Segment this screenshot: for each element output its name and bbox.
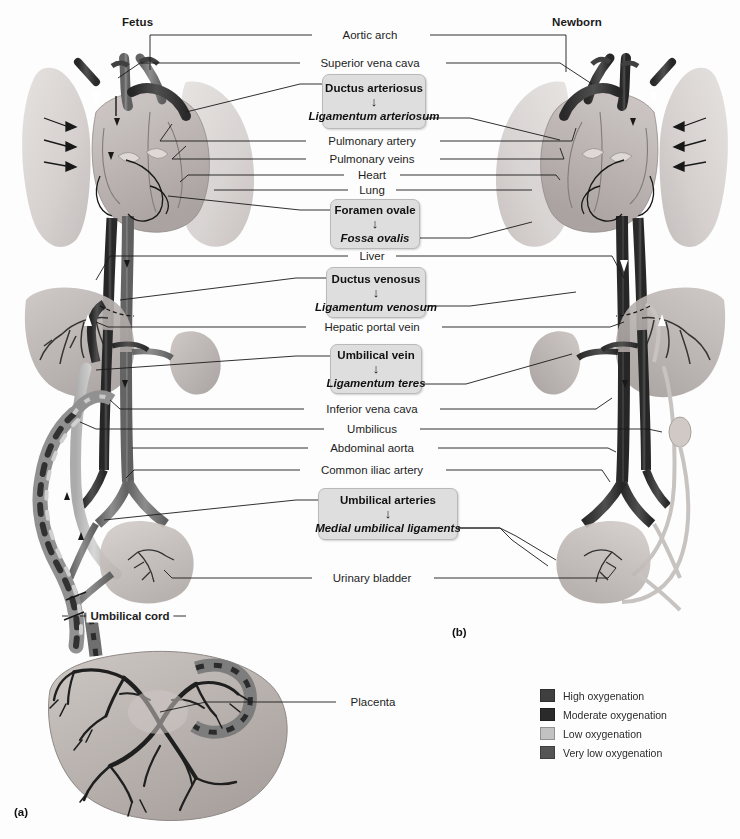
legend-swatch xyxy=(540,708,555,721)
fetal-structure-name: Foramen ovale xyxy=(334,203,415,217)
panel-a-letter: (a) xyxy=(14,806,28,818)
label-urinary-bladder: Urinary bladder xyxy=(329,572,416,585)
label-common-iliac-artery: Common iliac artery xyxy=(317,464,427,477)
label-abdominal-aorta: Abdominal aorta xyxy=(326,442,418,455)
newborn-title: Newborn xyxy=(552,16,602,28)
label-placenta: Placenta xyxy=(347,696,400,709)
down-arrow-icon: ↓ xyxy=(372,218,379,230)
adult-remnant-name: Ligamentum teres xyxy=(326,376,425,390)
adult-remnant-name: Medial umbilical ligaments xyxy=(315,521,461,535)
legend-label: Moderate oxygenation xyxy=(563,709,667,721)
legend-label: Low oxygenation xyxy=(563,728,642,740)
down-arrow-icon: ↓ xyxy=(373,363,380,375)
fetus-illustration xyxy=(22,58,254,646)
down-arrow-icon: ↓ xyxy=(371,96,378,108)
placenta-illustration xyxy=(49,612,288,821)
figure-root: Aortic archSuperior vena cavaPulmonary a… xyxy=(0,0,740,839)
label-superior-vena-cava: Superior vena cava xyxy=(316,57,423,70)
legend-swatch xyxy=(540,689,555,702)
label-lung: Lung xyxy=(355,184,389,197)
label-pulmonary-veins: Pulmonary veins xyxy=(325,153,418,166)
legend-label: Very low oxygenation xyxy=(563,747,662,759)
fetal-structure-name: Ductus arteriosus xyxy=(325,81,423,95)
legend-swatch xyxy=(540,746,555,759)
label-umbilical-cord: Umbilical cord xyxy=(86,610,173,623)
legend-item: Very low oxygenation xyxy=(540,743,720,762)
adult-remnant-name: Ligamentum venosum xyxy=(315,300,437,314)
transition-box-foramen-ovale: Foramen ovale↓Fossa ovalis xyxy=(330,199,420,249)
transition-box-ductus-arteriosus: Ductus arteriosus↓Ligamentum arteriosum xyxy=(322,74,426,129)
down-arrow-icon: ↓ xyxy=(373,287,380,299)
legend-label: High oxygenation xyxy=(563,690,644,702)
fetal-structure-name: Ductus venosus xyxy=(332,272,421,286)
label-liver: Liver xyxy=(356,250,389,263)
label-aortic-arch: Aortic arch xyxy=(339,29,402,42)
transition-box-umbilical-arteries: Umbilical arteries↓Medial umbilical liga… xyxy=(318,488,458,540)
fetal-structure-name: Umbilical arteries xyxy=(340,493,436,507)
label-inferior-vena-cava: Inferior vena cava xyxy=(322,403,421,416)
transition-box-ductus-venosus: Ductus venosus↓Ligamentum venosum xyxy=(326,267,426,318)
label-heart: Heart xyxy=(354,169,390,182)
fetus-title: Fetus xyxy=(122,16,153,28)
oxygenation-legend: High oxygenationModerate oxygenationLow … xyxy=(540,686,720,762)
legend-item: High oxygenation xyxy=(540,686,720,705)
fetal-structure-name: Umbilical vein xyxy=(337,348,414,362)
down-arrow-icon: ↓ xyxy=(385,508,392,520)
label-pulmonary-artery: Pulmonary artery xyxy=(324,135,420,148)
legend-swatch xyxy=(540,727,555,740)
adult-remnant-name: Fossa ovalis xyxy=(340,231,409,245)
legend-item: Low oxygenation xyxy=(540,724,720,743)
label-umbilicus: Umbilicus xyxy=(343,423,401,436)
panel-b-letter: (b) xyxy=(452,626,467,638)
label-hepatic-portal-vein: Hepatic portal vein xyxy=(320,321,423,334)
adult-remnant-name: Ligamentum arteriosum xyxy=(309,109,440,123)
transition-box-umbilical-vein: Umbilical vein↓Ligamentum teres xyxy=(330,344,422,394)
legend-item: Moderate oxygenation xyxy=(540,705,720,724)
